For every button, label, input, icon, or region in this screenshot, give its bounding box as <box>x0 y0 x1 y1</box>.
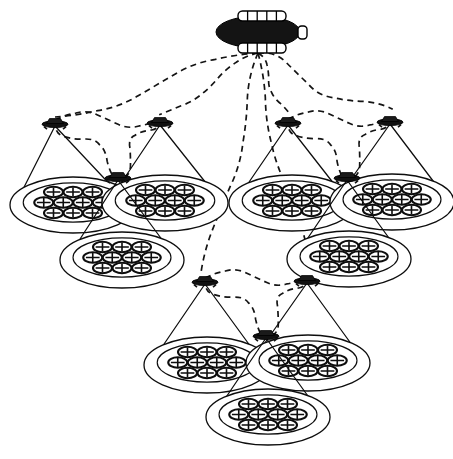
uav-dome-icon <box>299 276 316 281</box>
uav-dome-icon <box>382 117 399 122</box>
cell-cluster-uav-right-b <box>353 184 431 215</box>
cell-cluster-uav-bottom-a <box>168 347 246 378</box>
uav-dome-icon <box>47 119 64 124</box>
network-architecture-figure <box>0 0 453 459</box>
uav-dome-icon <box>152 118 169 123</box>
uav-dome-icon <box>110 173 127 178</box>
uav-dome-icon <box>339 173 356 178</box>
uav-dome-icon <box>280 118 297 123</box>
upper-solar-array <box>238 11 286 21</box>
uav-dome-icon <box>258 331 275 336</box>
cell-cluster-uav-left-a <box>34 187 112 218</box>
cell-cluster-uav-bottom-b <box>269 345 347 376</box>
cell-cluster-uav-bottom-c <box>229 399 307 430</box>
cell-cluster-uav-right-c <box>310 241 388 272</box>
uav-dome-icon <box>197 277 214 282</box>
lower-solar-array <box>238 43 286 53</box>
cell-cluster-uav-left-b <box>126 185 204 216</box>
cell-cluster-uav-left-c <box>83 242 161 273</box>
airship-tail-fin <box>298 26 307 39</box>
cell-cluster-uav-right-a <box>253 185 331 216</box>
